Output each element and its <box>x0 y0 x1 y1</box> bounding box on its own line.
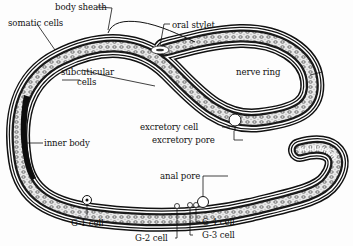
label-oral-stylet: oral stylet <box>172 20 215 30</box>
label-inner-body: inner body <box>44 138 90 148</box>
label-g3-cell: G-3 cell <box>202 230 235 240</box>
anal-pore-shape <box>198 197 209 208</box>
label-g1-cell: G-1 cell <box>71 218 104 228</box>
label-excretory-cell: excretory cell <box>140 122 198 132</box>
label-somatic-cells: somatic cells <box>8 18 63 28</box>
nematode-diagram: body sheath somatic cells oral stylet su… <box>0 0 353 246</box>
label-g2-cell: G-2 cell <box>135 233 168 243</box>
label-g4-cell: G-4 cell <box>202 217 235 227</box>
label-nerve-ring: nerve ring <box>236 67 280 77</box>
label-anal-pore: anal pore <box>160 171 200 181</box>
label-subcuticular: subcuticular <box>61 67 114 77</box>
label-subcuticular-cells: cells <box>77 77 96 87</box>
excretory-cell-shape <box>229 114 241 126</box>
label-body-sheath: body sheath <box>55 2 107 12</box>
label-excretory-pore: excretory pore <box>152 135 215 145</box>
